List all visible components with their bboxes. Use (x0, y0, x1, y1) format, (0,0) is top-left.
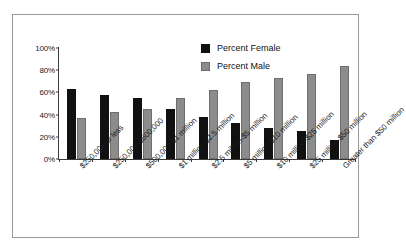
legend-item: Percent Female (201, 43, 281, 53)
x-axis-category-label: $25 million-$50 million (308, 110, 369, 171)
chart-legend: Percent FemalePercent Male (201, 43, 281, 79)
legend-label: Percent Male (217, 61, 270, 71)
x-axis-category-label: Greater than $50 million (341, 105, 406, 170)
legend-label: Percent Female (217, 43, 281, 53)
legend-swatch-male (201, 62, 210, 71)
x-axis-category-label: $1 million-$2.5 million (177, 111, 236, 170)
chart-frame: 0%20%40%60%80%100% $250,000 or less$250,… (12, 14, 359, 238)
legend-item: Percent Male (201, 61, 281, 71)
x-axis-category-label: $2.5 million-$5 million (210, 111, 269, 170)
x-axis-category-label: $10 million-$25 million (275, 110, 336, 171)
x-axis-labels: $250,000 or less$250,000-$500,000$500,00… (13, 15, 358, 237)
legend-swatch-female (201, 44, 210, 53)
